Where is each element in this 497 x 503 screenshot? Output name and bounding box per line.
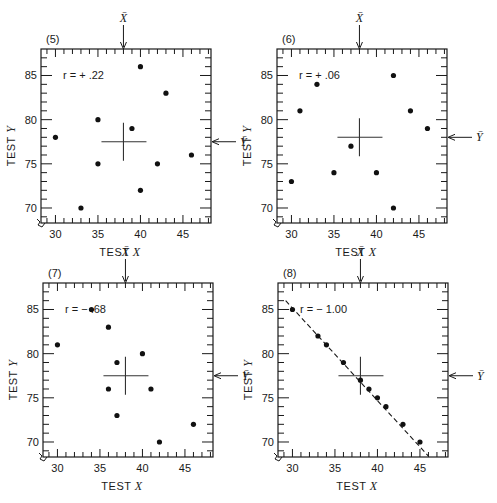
y-tick-label: 80: [27, 348, 39, 360]
data-point: [290, 307, 295, 312]
panel-label: (5): [46, 33, 59, 45]
y-tick-label: 70: [25, 202, 37, 214]
x-tick-label: 30: [51, 462, 63, 474]
mean-x-label: X̄: [356, 245, 365, 259]
scatter-panel-8: (8)3035404570758085TEST XTEST YX̄Ȳr = − …: [237, 234, 485, 485]
correlation-annotation: r = + .22: [63, 69, 104, 81]
y-tick-label: 70: [262, 436, 274, 448]
scatter-panel-6: (6)3035404570758085TEST XTEST YX̄Ȳr = + …: [236, 0, 484, 251]
y-tick-label: 85: [262, 303, 274, 315]
y-tick-label: 80: [25, 114, 37, 126]
correlation-annotation: r = − 1.00: [300, 303, 347, 315]
data-point: [148, 386, 153, 391]
y-tick-label: 85: [27, 303, 39, 315]
correlation-annotation: r = + .06: [299, 69, 340, 81]
mean-x-label: X̄: [355, 11, 364, 25]
chart-svg: (7)3035404570758085TEST XTEST YX̄Ȳr = − …: [2, 234, 250, 485]
x-tick-label: 30: [286, 462, 298, 474]
data-point: [89, 307, 94, 312]
data-point: [138, 188, 143, 193]
x-axis-variable: X: [369, 479, 378, 493]
data-point: [341, 360, 346, 365]
data-point: [366, 386, 371, 391]
y-axis-label: TEST Y: [4, 125, 18, 166]
y-axis-variable: Y: [6, 359, 20, 367]
panel-label: (6): [282, 33, 295, 45]
data-point: [106, 325, 111, 330]
mean-x-label: X̄: [119, 11, 128, 25]
data-point: [106, 386, 111, 391]
data-point: [140, 351, 145, 356]
y-tick-label: 85: [25, 69, 37, 81]
scatter-panel-5: (5)3035404570758085TEST XTEST YX̄Ȳr = + …: [0, 0, 248, 251]
data-point: [157, 439, 162, 444]
y-axis-label: TEST Y: [240, 125, 254, 166]
data-point: [348, 144, 353, 149]
data-point: [78, 205, 83, 210]
x-tick-label: 45: [414, 462, 426, 474]
y-tick-label: 75: [25, 158, 37, 170]
data-point: [314, 82, 319, 87]
data-point: [374, 170, 379, 175]
data-point: [191, 422, 196, 427]
data-point: [95, 117, 100, 122]
data-point: [324, 342, 329, 347]
y-tick-label: 75: [27, 392, 39, 404]
data-point: [358, 378, 363, 383]
data-point: [163, 91, 168, 96]
chart-svg: (6)3035404570758085TEST XTEST YX̄Ȳr = + …: [236, 0, 484, 251]
y-tick-label: 80: [262, 348, 274, 360]
x-axis-label: TEST X: [101, 479, 142, 493]
data-point: [114, 360, 119, 365]
data-point: [391, 73, 396, 78]
data-point: [331, 170, 336, 175]
y-tick-label: 70: [27, 436, 39, 448]
y-axis-label: TEST Y: [241, 359, 255, 400]
x-tick-label: 35: [329, 462, 341, 474]
data-point: [408, 108, 413, 113]
panel-label: (8): [283, 267, 296, 279]
y-tick-label: 85: [261, 69, 273, 81]
chart-svg: (8)3035404570758085TEST XTEST YX̄Ȳr = − …: [237, 234, 485, 485]
y-tick-label: 70: [261, 202, 273, 214]
x-tick-label: 40: [136, 462, 148, 474]
data-point: [138, 64, 143, 69]
y-tick-label: 75: [261, 158, 273, 170]
data-point: [55, 342, 60, 347]
data-point: [155, 161, 160, 166]
chart-svg: (5)3035404570758085TEST XTEST YX̄Ȳr = + …: [0, 0, 248, 251]
data-point: [53, 135, 58, 140]
data-point: [391, 205, 396, 210]
y-axis-variable: Y: [241, 359, 255, 367]
mean-y-label: Ȳ: [477, 369, 485, 383]
mean-y-label: Ȳ: [476, 130, 484, 144]
x-tick-label: 35: [94, 462, 106, 474]
x-tick-label: 40: [371, 462, 383, 474]
data-point: [289, 179, 294, 184]
data-point: [417, 439, 422, 444]
data-point: [95, 161, 100, 166]
regression-line: [286, 301, 429, 456]
panel-label: (7): [48, 267, 61, 279]
data-point: [400, 422, 405, 427]
scatter-panel-7: (7)3035404570758085TEST XTEST YX̄Ȳr = − …: [2, 234, 250, 485]
y-axis-label: TEST Y: [6, 359, 20, 400]
data-point: [114, 413, 119, 418]
x-axis-variable: X: [134, 479, 143, 493]
y-axis-variable: Y: [240, 125, 254, 133]
y-tick-label: 75: [262, 392, 274, 404]
data-point: [315, 333, 320, 338]
data-point: [383, 404, 388, 409]
correlation-annotation: r = − .68: [65, 303, 106, 315]
data-point: [297, 108, 302, 113]
data-point: [375, 395, 380, 400]
x-axis-label: TEST X: [336, 479, 377, 493]
data-point: [129, 126, 134, 131]
y-axis-variable: Y: [4, 125, 18, 133]
mean-x-label: X̄: [121, 245, 130, 259]
x-tick-label: 45: [179, 462, 191, 474]
data-point: [425, 126, 430, 131]
y-tick-label: 80: [261, 114, 273, 126]
data-point: [189, 152, 194, 157]
